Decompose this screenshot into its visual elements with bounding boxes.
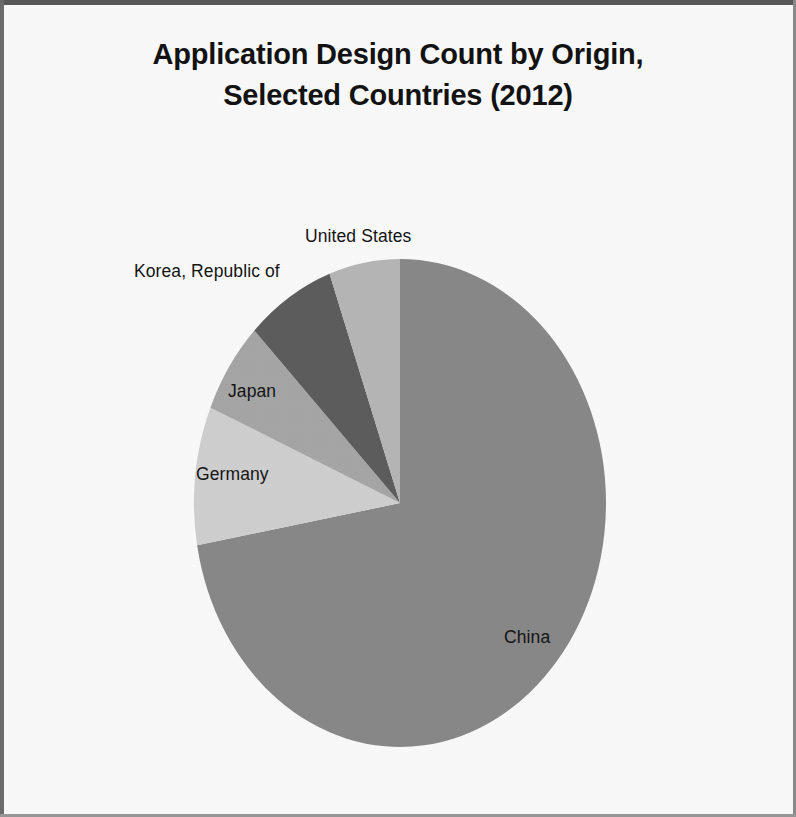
slice-label-united-states: United States <box>305 226 411 247</box>
slice-label-germany: Germany <box>196 464 269 485</box>
pie-chart-svg <box>0 0 796 817</box>
scanned-page: Application Design Count by Origin, Sele… <box>0 0 796 817</box>
pie-chart-plot-area: United States Korea, Republic of Japan G… <box>0 0 796 817</box>
slice-label-china: China <box>504 627 550 648</box>
slice-label-japan: Japan <box>228 381 276 402</box>
slice-label-korea: Korea, Republic of <box>134 261 280 282</box>
pie-slice-group <box>194 259 606 747</box>
